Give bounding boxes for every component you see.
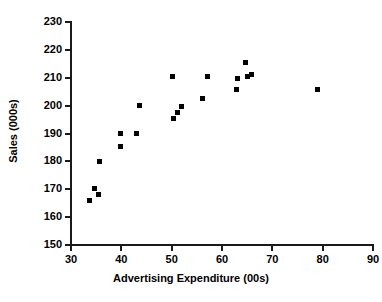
x-tick-label: 70 xyxy=(252,253,292,265)
data-point xyxy=(96,192,101,197)
y-tick xyxy=(65,160,71,162)
data-point xyxy=(175,110,180,115)
scatter-plot: 150160170180190200210220230 304050607080… xyxy=(0,0,382,302)
x-tick-label: 60 xyxy=(202,253,242,265)
x-tick xyxy=(120,246,122,251)
x-tick-label: 40 xyxy=(101,253,141,265)
x-tick-label: 50 xyxy=(152,253,192,265)
y-axis-title: Sales (000s) xyxy=(7,71,19,191)
plot-area xyxy=(71,22,373,245)
x-tick xyxy=(70,246,72,251)
y-tick xyxy=(65,49,71,51)
x-tick-label: 90 xyxy=(353,253,382,265)
y-tick-label: 150 xyxy=(0,239,62,250)
data-point xyxy=(118,144,123,149)
data-point xyxy=(137,103,142,108)
data-point xyxy=(134,131,139,136)
y-tick xyxy=(65,133,71,135)
data-point xyxy=(205,74,210,79)
y-tick-label: 160 xyxy=(0,211,62,222)
x-tick xyxy=(171,246,173,251)
x-tick xyxy=(372,246,374,251)
y-tick xyxy=(65,77,71,79)
x-axis-title: Advertising Expenditure (00s) xyxy=(0,272,382,284)
y-tick xyxy=(65,105,71,107)
y-tick-label: 230 xyxy=(0,16,62,27)
data-point xyxy=(170,74,175,79)
data-point xyxy=(171,116,176,121)
data-point xyxy=(315,87,320,92)
y-tick xyxy=(65,21,71,23)
y-tick xyxy=(65,216,71,218)
x-tick-label: 30 xyxy=(51,253,91,265)
data-point xyxy=(235,76,240,81)
x-tick xyxy=(271,246,273,251)
data-point xyxy=(118,131,123,136)
y-tick xyxy=(65,188,71,190)
data-point xyxy=(92,186,97,191)
data-point xyxy=(234,87,239,92)
y-tick-label: 220 xyxy=(0,44,62,55)
x-tick xyxy=(322,246,324,251)
data-point xyxy=(243,60,248,65)
data-point xyxy=(87,198,92,203)
data-point xyxy=(200,96,205,101)
data-point xyxy=(249,72,254,77)
data-point xyxy=(97,159,102,164)
x-tick xyxy=(221,246,223,251)
x-tick-label: 80 xyxy=(303,253,343,265)
data-point xyxy=(179,104,184,109)
